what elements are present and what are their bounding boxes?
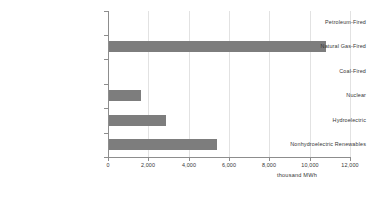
x-axis-tick-label-10000: 10,000 — [301, 162, 318, 169]
x-axis-tick-label-2000: 2,000 — [141, 162, 155, 169]
y-axis-label-petroleum-fired: Petroleum-Fired — [267, 19, 371, 26]
x-axis-tick-label-4000: 4,000 — [182, 162, 196, 169]
bar-hydroelectric — [109, 115, 166, 126]
x-axis-tick — [108, 157, 109, 161]
y-axis-tick — [104, 84, 108, 85]
gridline — [229, 11, 230, 157]
bar-nuclear — [109, 90, 141, 101]
y-axis-label-nuclear: Nuclear — [267, 92, 371, 99]
y-axis-line — [108, 11, 109, 157]
x-axis-tick — [229, 157, 230, 161]
y-axis-label-nonhydroelectric-renewables: Nonhydroelectric Renewables — [267, 141, 371, 148]
gridline — [189, 11, 190, 157]
y-axis-tick — [104, 133, 108, 134]
y-axis-label-coal-fired: Coal-Fired — [267, 68, 371, 75]
bar-chart: Petroleum-Fired Natural Gas-Fired Coal-F… — [0, 0, 371, 197]
x-axis-tick — [310, 157, 311, 161]
gridline — [269, 11, 270, 157]
x-axis-tick-label-0: 0 — [106, 162, 109, 169]
x-axis-title: thousand MWh — [277, 172, 317, 178]
y-axis-tick — [104, 35, 108, 36]
x-axis-tick — [350, 157, 351, 161]
x-axis-tick-label-6000: 6,000 — [222, 162, 236, 169]
y-axis-tick — [104, 11, 108, 12]
x-axis-tick — [189, 157, 190, 161]
gridline — [148, 11, 149, 157]
bar-nonhydroelectric-renewables — [109, 139, 217, 150]
x-axis-tick-label-8000: 8,000 — [262, 162, 276, 169]
x-axis-tick — [148, 157, 149, 161]
x-axis-tick — [269, 157, 270, 161]
y-axis-tick — [104, 59, 108, 60]
plot-area — [108, 11, 350, 157]
gridline — [350, 11, 351, 157]
y-axis-label-natural-gas-fired: Natural Gas-Fired — [267, 43, 371, 50]
x-axis-tick-label-12000: 12,000 — [341, 162, 358, 169]
y-axis-tick — [104, 108, 108, 109]
gridline — [310, 11, 311, 157]
y-axis-label-hydroelectric: Hydroelectric — [267, 117, 371, 124]
